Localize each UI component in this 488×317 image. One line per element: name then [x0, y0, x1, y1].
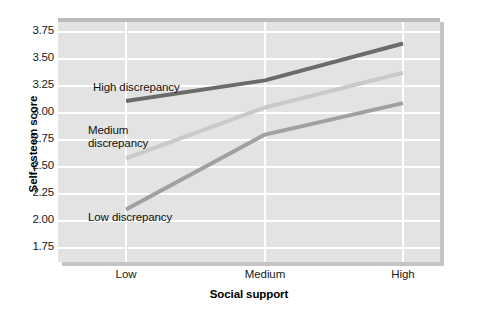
y-axis-tick-label: 3.50 [20, 51, 54, 63]
x-axis-tick-label: Low [116, 268, 137, 280]
y-axis-tick-label: 3.00 [20, 105, 54, 117]
y-axis-tick-label: 2.25 [20, 186, 54, 198]
x-axis-tick-labels: LowMediumHigh [0, 268, 488, 286]
y-axis-tick-label: 2.75 [20, 132, 54, 144]
series-line [126, 103, 403, 209]
series-annotation-label: Medium discrepancy [88, 124, 148, 150]
y-axis-tick-label: 2.00 [20, 213, 54, 225]
chart-figure: Self-esteem score 3.753.503.253.002.752.… [0, 0, 488, 317]
series-annotation-label: Low discrepancy [88, 211, 172, 224]
y-axis-tick-label: 3.75 [20, 24, 54, 36]
y-axis-tick-label: 1.75 [20, 240, 54, 252]
y-axis-tick-label: 2.50 [20, 159, 54, 171]
x-axis-title: Social support [58, 288, 440, 300]
series-annotation-label: High discrepancy [93, 81, 180, 94]
x-axis-tick-label: High [391, 268, 414, 280]
x-axis-tick-label: Medium [245, 268, 285, 280]
y-axis-tick-label: 3.25 [20, 78, 54, 90]
